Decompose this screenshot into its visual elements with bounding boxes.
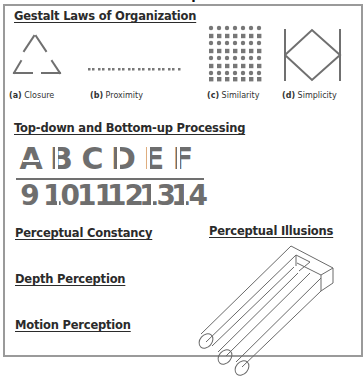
stencil-numbers-row: 9 10 11 12 13 14 [15, 180, 201, 212]
closure-caption: (a) Closure [9, 91, 54, 100]
stencil-gap [117, 146, 120, 174]
illusions-heading: Perceptual Illusions [209, 224, 333, 238]
simplicity-label: Simplicity [295, 91, 337, 100]
proximity-letter: (b) [90, 91, 103, 100]
stencil-number: 11 [77, 180, 107, 212]
similarity-label: Similarity [219, 91, 259, 100]
cut-off-title: Perception [150, 0, 240, 2]
stencil-number: 10 [43, 180, 77, 212]
motion-heading: Motion Perception [15, 318, 131, 332]
stencil-letter: D [108, 142, 139, 176]
similarity-letter: (c) [207, 91, 219, 100]
proximity-label: Proximity [103, 91, 143, 100]
stencil-letter: A [16, 142, 46, 176]
stencil-number: 12 [107, 180, 139, 212]
similarity-caption: (c) Similarity [207, 91, 259, 100]
gestalt-heading: Gestalt Laws of Organization [14, 9, 196, 23]
closure-label: Closure [22, 91, 55, 100]
stencil-letter: E [139, 142, 169, 176]
stencil-gap [177, 146, 180, 174]
similarity-grid-icon [208, 25, 264, 81]
simplicity-shape-icon [283, 27, 343, 83]
stencil-letter: B [46, 142, 77, 176]
stencil-gap [23, 160, 39, 162]
stencil-number: 9 [15, 180, 43, 212]
simplicity-caption: (d) Simplicity [282, 91, 337, 100]
stencil-gap [55, 146, 58, 174]
stencil-gap [147, 146, 150, 174]
stencil-number: 14 [171, 180, 201, 212]
closure-triangle-icon [10, 33, 70, 83]
stencil-letter: C [77, 142, 108, 176]
cut-off-title-text: Perception [150, 0, 240, 2]
stencil-letters-row: A B C D E F [16, 142, 197, 176]
stencil-gap [57, 184, 59, 212]
simplicity-letter: (d) [282, 91, 295, 100]
stencil-letter: F [169, 142, 197, 176]
processing-heading: Top-down and Bottom-up Processing [14, 121, 245, 135]
stencil-gap [151, 184, 153, 212]
closure-letter: (a) [9, 91, 22, 100]
depth-heading: Depth Perception [15, 272, 125, 286]
constancy-heading: Perceptual Constancy [15, 226, 152, 240]
stencil-number: 13 [139, 180, 171, 212]
stencil-gap [184, 184, 186, 212]
impossible-trident-icon [190, 240, 340, 360]
proximity-dots-icon [88, 67, 180, 73]
proximity-caption: (b) Proximity [90, 91, 143, 100]
